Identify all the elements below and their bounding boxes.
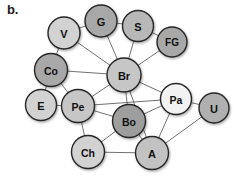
graph-node-e[interactable]: E <box>26 90 57 121</box>
graph-node-fg[interactable]: FG <box>157 27 187 57</box>
node-circle-v[interactable] <box>48 17 80 49</box>
node-circle-fg[interactable] <box>157 27 187 57</box>
node-circle-s[interactable] <box>123 11 154 42</box>
network-graph: VGSFGCoBrEPePaUBoChA <box>0 0 238 178</box>
node-circle-u[interactable] <box>199 93 229 123</box>
node-circle-ch[interactable] <box>72 136 105 169</box>
graph-node-g[interactable]: G <box>85 5 117 37</box>
node-circle-a[interactable] <box>136 137 169 170</box>
node-circle-co[interactable] <box>35 54 68 87</box>
node-circle-br[interactable] <box>107 58 141 92</box>
graph-node-a[interactable]: A <box>136 137 169 170</box>
graph-node-ch[interactable]: Ch <box>72 136 105 169</box>
network-diagram-figure: b. VGSFGCoBrEPePaUBoChA <box>0 0 238 178</box>
graph-node-pa[interactable]: Pa <box>161 84 192 115</box>
node-circle-pa[interactable] <box>161 84 192 115</box>
node-layer: VGSFGCoBrEPePaUBoChA <box>26 5 230 170</box>
graph-node-pe[interactable]: Pe <box>62 90 95 123</box>
node-circle-g[interactable] <box>85 5 117 37</box>
graph-node-v[interactable]: V <box>48 17 80 49</box>
node-circle-e[interactable] <box>26 90 57 121</box>
node-circle-pe[interactable] <box>62 90 95 123</box>
graph-node-co[interactable]: Co <box>35 54 68 87</box>
graph-node-u[interactable]: U <box>199 93 229 123</box>
node-circle-bo[interactable] <box>113 105 146 138</box>
graph-node-br[interactable]: Br <box>107 58 141 92</box>
graph-node-bo[interactable]: Bo <box>113 105 146 138</box>
graph-node-s[interactable]: S <box>123 11 154 42</box>
